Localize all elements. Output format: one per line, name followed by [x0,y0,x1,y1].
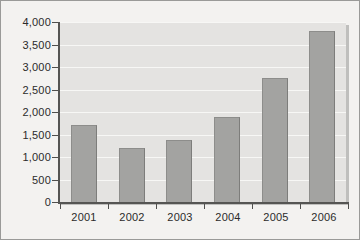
x-axis-tick-mark [204,204,205,209]
x-axis-tick-label: 2006 [300,211,348,223]
bar-slot [60,22,108,202]
bar-slot [155,22,203,202]
x-axis-tick-mark [348,204,349,209]
bar-series [60,22,346,202]
bar-2004[interactable] [214,117,240,202]
bar-slot [108,22,156,202]
y-axis-tick-label: 2,000 [22,106,51,118]
x-axis-tick-mark [60,204,61,209]
x-axis-ticks [60,204,348,209]
y-axis-tick-label: 3,000 [22,61,51,73]
bar-2005[interactable] [262,78,288,202]
x-axis-tick-label: 2005 [252,211,300,223]
x-axis-tick-mark [300,204,301,209]
y-axis-tick-label: 1,000 [22,151,51,163]
plot-wrapper [58,22,346,202]
x-axis-tick-mark [252,204,253,209]
y-axis-tick-label: 1,500 [22,129,51,141]
bar-2006[interactable] [309,31,335,202]
plot-area [58,22,346,202]
bar-chart-figure: 4,0003,5003,0002,5002,0001,5001,0005000 … [0,0,360,240]
bar-slot [203,22,251,202]
x-axis-tick-mark [108,204,109,209]
bar-2002[interactable] [119,148,145,202]
bar-2003[interactable] [166,140,192,202]
y-axis-tick-label: 0 [45,196,51,208]
x-axis-labels: 200120022003200420052006 [60,211,348,223]
x-axis-tick-label: 2003 [156,211,204,223]
y-axis-tick-label: 2,500 [22,84,51,96]
y-axis-tick-label: 3,500 [22,39,51,51]
y-axis-tick-label: 500 [32,174,51,186]
bar-slot [298,22,346,202]
bar-slot [251,22,299,202]
y-axis-tick-label: 4,000 [22,16,51,28]
x-axis-tick-label: 2002 [108,211,156,223]
x-axis-tick-label: 2001 [60,211,108,223]
x-axis-tick-mark [156,204,157,209]
bar-2001[interactable] [71,125,97,202]
x-axis-tick-label: 2004 [204,211,252,223]
y-axis-labels: 4,0003,5003,0002,5002,0001,5001,0005000 [1,22,51,202]
